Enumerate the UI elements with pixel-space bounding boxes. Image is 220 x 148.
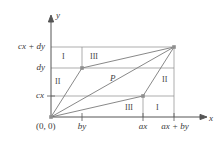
region-label-bottom-right-I: I	[156, 104, 159, 112]
parallelogram-decomposition-figure: y x cx + dy dy cx (0, 0) by ax ax + by I…	[0, 0, 220, 148]
vertex-by-dy	[80, 66, 84, 70]
ytick-label-dy: dy	[0, 63, 45, 72]
vertex-origin	[49, 115, 53, 119]
region-label-bottom-III: III	[125, 104, 133, 112]
y-axis-label: y	[56, 11, 60, 20]
x-axis-arrow	[200, 114, 207, 119]
vertex-top-right	[172, 45, 176, 49]
vertex-ax-cx	[141, 94, 145, 98]
xtick-label-by: by	[73, 122, 91, 131]
xtick-label-ax-plus-by: ax + by	[154, 122, 196, 131]
x-axis-label: x	[209, 114, 213, 123]
ytick-label-cx: cx	[0, 91, 44, 100]
region-label-top-right-III: III	[90, 53, 98, 61]
region-label-left-II: II	[55, 78, 60, 86]
y-axis-arrow	[48, 15, 53, 22]
xtick-label-ax: ax	[134, 122, 152, 131]
region-label-center-P: P	[110, 74, 116, 83]
region-label-right-II: II	[162, 76, 167, 84]
region-label-top-left-I: I	[62, 53, 65, 61]
origin-label: (0, 0)	[36, 122, 56, 131]
ytick-label-cx-plus-dy: cx + dy	[0, 42, 45, 51]
